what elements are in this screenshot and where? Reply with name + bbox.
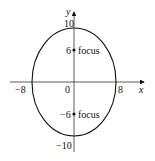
right-vertex-label: 8 (118, 84, 123, 95)
bottom-vertex-label: −10 (56, 140, 72, 151)
focus-point-lower (72, 112, 75, 115)
upper-focus-value: 6 (66, 45, 71, 56)
focus-point-upper (72, 48, 75, 51)
lower-focus-value: −6 (60, 109, 71, 120)
ellipse-diagram: y x 10 −10 −8 8 0 6 focus −6 focus (0, 0, 155, 161)
left-vertex-label: −8 (15, 84, 26, 95)
origin-label: 0 (65, 84, 70, 95)
x-axis-label: x (138, 84, 144, 95)
lower-focus-text: focus (78, 109, 100, 120)
top-vertex-label: 10 (64, 18, 74, 29)
upper-focus-text: focus (78, 45, 100, 56)
y-axis-label: y (65, 6, 71, 17)
